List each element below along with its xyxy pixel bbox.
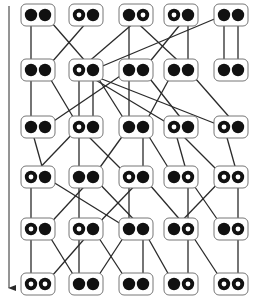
filled-node-icon: [218, 9, 230, 21]
edge-line: [93, 15, 224, 70]
node-ring-hole: [77, 125, 82, 130]
filled-node-icon: [137, 121, 149, 133]
filled-node-icon: [25, 64, 37, 76]
filled-node-icon: [232, 121, 244, 133]
node-ring-hole: [77, 227, 82, 232]
filled-node-icon: [137, 171, 149, 183]
filled-node-icon: [137, 223, 149, 235]
filled-node-icon: [232, 64, 244, 76]
filled-node-icon: [168, 171, 180, 183]
node-ring-hole: [43, 282, 48, 287]
node-ring-hole: [172, 13, 177, 18]
node-ring-hole: [186, 227, 191, 232]
filled-node-icon: [218, 223, 230, 235]
filled-node-icon: [123, 121, 135, 133]
filled-node-icon: [25, 121, 37, 133]
filled-node-icon: [232, 9, 244, 21]
filled-node-icon: [123, 9, 135, 21]
filled-node-icon: [137, 278, 149, 290]
filled-node-icon: [123, 223, 135, 235]
node-ring-hole: [236, 227, 241, 232]
filled-node-icon: [87, 278, 99, 290]
filled-node-icon: [182, 121, 194, 133]
node-ring-hole: [222, 175, 227, 180]
node-ring-hole: [141, 13, 146, 18]
filled-node-icon: [137, 64, 149, 76]
filled-node-icon: [218, 64, 230, 76]
node-ring-hole: [236, 175, 241, 180]
filled-node-icon: [73, 171, 85, 183]
filled-node-icon: [182, 9, 194, 21]
filled-node-icon: [39, 9, 51, 21]
filled-node-icon: [39, 121, 51, 133]
node-ring-hole: [29, 282, 34, 287]
node-ring-hole: [222, 282, 227, 287]
node-ring-hole: [236, 282, 241, 287]
node-ring-hole: [222, 125, 227, 130]
filled-node-icon: [87, 223, 99, 235]
filled-node-icon: [168, 223, 180, 235]
edges-layer: [31, 15, 238, 284]
filled-node-icon: [87, 171, 99, 183]
filled-node-icon: [168, 64, 180, 76]
filled-node-icon: [87, 9, 99, 21]
node-ring-hole: [186, 282, 191, 287]
filled-node-icon: [87, 64, 99, 76]
node-ring-hole: [127, 175, 132, 180]
filled-node-icon: [73, 278, 85, 290]
filled-node-icon: [182, 64, 194, 76]
node-ring-hole: [77, 13, 82, 18]
filled-node-icon: [123, 64, 135, 76]
node-ring-hole: [77, 68, 82, 73]
filled-node-icon: [25, 9, 37, 21]
node-ring-hole: [172, 125, 177, 130]
filled-node-icon: [39, 64, 51, 76]
node-ring-hole: [29, 175, 34, 180]
filled-node-icon: [39, 223, 51, 235]
boxes-layer: [21, 4, 248, 295]
filled-node-icon: [168, 278, 180, 290]
node-ring-hole: [186, 175, 191, 180]
filled-node-icon: [123, 278, 135, 290]
node-ring-hole: [29, 227, 34, 232]
filled-node-icon: [87, 121, 99, 133]
tensor-network-diagram: [0, 0, 257, 302]
filled-node-icon: [39, 171, 51, 183]
